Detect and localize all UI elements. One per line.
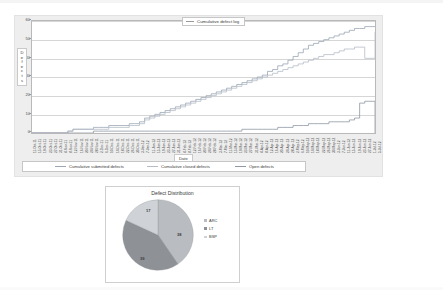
x-tick-label: 4-Feb-12 xyxy=(183,140,187,153)
x-axis-title: Date xyxy=(174,154,193,162)
pie-graphic: 17 38 39 xyxy=(122,199,194,271)
legend-item-submitted[interactable]: Cumulative submitted defects xyxy=(55,164,124,169)
x-tick-label: 16-Feb-12 xyxy=(198,138,202,153)
pie-legend-label-arc: ARC xyxy=(209,218,217,223)
x-tick-label: 23-Jun-12 xyxy=(363,139,367,153)
y-tick-mark xyxy=(29,75,31,76)
chart-title-box: Cumulative defect log xyxy=(182,17,245,26)
line-series-group xyxy=(32,21,375,133)
x-tick-label: 16-Apr-12 xyxy=(275,139,279,153)
pie-chart-legend: ARC LT BSP xyxy=(204,218,217,239)
x-tick-label: 24-Nov-11 xyxy=(90,138,94,153)
x-tick-label: 19-Oct-11 xyxy=(43,139,47,153)
y-tick-mark xyxy=(29,38,31,39)
x-tick-label: 4-Apr-12 xyxy=(260,141,264,153)
pie-legend-label-lt: LT xyxy=(209,226,213,231)
line-chart-legend: Cumulative submitted defects Cumulative … xyxy=(22,161,306,172)
page-top-rule xyxy=(0,0,443,3)
title-line-swatch xyxy=(186,21,194,22)
x-tick-label: 7-Jan-12 xyxy=(146,140,150,153)
pie-slices xyxy=(122,199,194,271)
pie-legend-item-bsp[interactable]: BSP xyxy=(204,234,217,239)
legend-item-open[interactable]: Open defects xyxy=(235,164,274,169)
x-tick-label: 23-Jan-12 xyxy=(167,139,171,153)
x-tick-label: 14-May-12 xyxy=(311,138,315,153)
pie-legend-swatch-bsp xyxy=(204,236,207,239)
x-tick-label: 15-Oct-11 xyxy=(38,139,42,153)
x-tick-label: 11-Mar-12 xyxy=(229,138,233,153)
x-axis-labels: 11-Oct-1115-Oct-1119-Oct-1123-Oct-1127-O… xyxy=(32,133,377,155)
pie-slice-label-arc: 38 xyxy=(177,232,181,237)
x-tick-label: 20-Feb-12 xyxy=(203,138,207,153)
x-tick-label: 22-May-12 xyxy=(322,138,326,153)
x-tick-label: 31-Jan-12 xyxy=(177,139,181,153)
y-tick-mark xyxy=(29,94,31,95)
chart-title: Cumulative defect log xyxy=(197,19,239,24)
pie-chart-title: Defect Distribution xyxy=(106,190,239,196)
x-tick-label: 11-Jan-12 xyxy=(152,139,156,153)
x-tick-label: 6-May-12 xyxy=(301,139,305,153)
series-line xyxy=(32,101,375,133)
x-tick-label: 22-Dec-11 xyxy=(126,138,130,153)
pie-slice-label-lt: 39 xyxy=(140,256,144,261)
x-tick-label: 12-Apr-12 xyxy=(270,139,274,153)
x-tick-label: 30-May-12 xyxy=(332,138,336,153)
x-tick-label: 27-Jan-12 xyxy=(172,139,176,153)
x-tick-label: 28-Apr-12 xyxy=(291,139,295,153)
legend-swatch-open xyxy=(235,166,246,167)
legend-swatch-submitted xyxy=(55,166,66,167)
x-tick-label: 31-Mar-12 xyxy=(255,138,259,153)
x-tick-label: 3-Jan-12 xyxy=(141,140,145,153)
x-tick-label: 20-Apr-12 xyxy=(280,139,284,153)
x-tick-label: 27-Oct-11 xyxy=(54,139,58,153)
x-tick-label: 18-Dec-11 xyxy=(121,138,125,153)
x-tick-label: 28-Feb-12 xyxy=(213,138,217,153)
series-line xyxy=(32,27,375,133)
x-tick-label: 8-Nov-11 xyxy=(69,140,73,153)
pie-legend-label-bsp: BSP xyxy=(209,234,217,239)
x-tick-label: 19-Jan-12 xyxy=(162,139,166,153)
pie-legend-swatch-lt xyxy=(204,227,207,230)
y-tick-mark xyxy=(29,113,31,114)
x-tick-label: 14-Dec-11 xyxy=(116,138,120,153)
pie-legend-item-arc[interactable]: ARC xyxy=(204,218,217,223)
y-tick-mark xyxy=(29,131,31,132)
x-tick-label: 11-Oct-11 xyxy=(33,139,37,153)
x-tick-label: 24-Apr-12 xyxy=(286,139,290,153)
legend-label-submitted: Cumulative submitted defects xyxy=(69,164,124,169)
x-tick-label: 18-May-12 xyxy=(316,138,320,153)
x-tick-label: 15-Mar-12 xyxy=(234,138,238,153)
defect-distribution-chart[interactable]: Defect Distribution 17 38 39 ARC LT BSP xyxy=(105,186,240,283)
x-tick-label: 27-Jun-12 xyxy=(368,139,372,153)
x-tick-label: 26-May-12 xyxy=(327,138,331,153)
x-tick-label: 8-Feb-12 xyxy=(188,140,192,153)
legend-label-closed: Cumulative closed defects xyxy=(161,164,210,169)
x-tick-label: 8-Apr-12 xyxy=(265,141,269,153)
x-tick-label: 16-Nov-11 xyxy=(80,138,84,153)
x-tick-label: 30-Dec-11 xyxy=(136,138,140,153)
pie-legend-swatch-arc xyxy=(204,219,207,222)
x-tick-label: 28-Nov-11 xyxy=(95,138,99,153)
y-axis-title-char: s xyxy=(18,79,26,84)
x-tick-label: 11-Jun-12 xyxy=(347,139,351,153)
x-tick-label: 3-Mar-12 xyxy=(219,140,223,153)
x-tick-label: 19-Jun-12 xyxy=(358,139,362,153)
pie-legend-item-lt[interactable]: LT xyxy=(204,226,217,231)
y-tick-mark xyxy=(29,19,31,20)
x-tick-label: 10-Dec-11 xyxy=(110,138,114,153)
x-tick-label: 7-Mar-12 xyxy=(224,140,228,153)
x-tick-label: 26-Dec-11 xyxy=(131,138,135,153)
y-axis-title: Defects xyxy=(17,48,27,86)
x-tick-label: 27-Mar-12 xyxy=(249,138,253,153)
x-tick-label: 7-Jun-12 xyxy=(342,140,346,153)
y-tick-mark xyxy=(29,57,31,58)
x-tick-label: 12-Feb-12 xyxy=(193,138,197,153)
x-tick-label: 1-Jul-12 xyxy=(373,141,377,153)
x-tick-label: 2-Dec-11 xyxy=(100,140,104,153)
legend-item-closed[interactable]: Cumulative closed defects xyxy=(147,164,210,169)
x-tick-label: 15-Jan-12 xyxy=(157,139,161,153)
x-tick-label: 10-May-12 xyxy=(306,138,310,153)
x-tick-label: 6-Dec-11 xyxy=(105,140,109,153)
x-tick-label: 3-Jun-12 xyxy=(337,140,341,153)
x-tick-label: 4-Nov-11 xyxy=(64,140,68,153)
